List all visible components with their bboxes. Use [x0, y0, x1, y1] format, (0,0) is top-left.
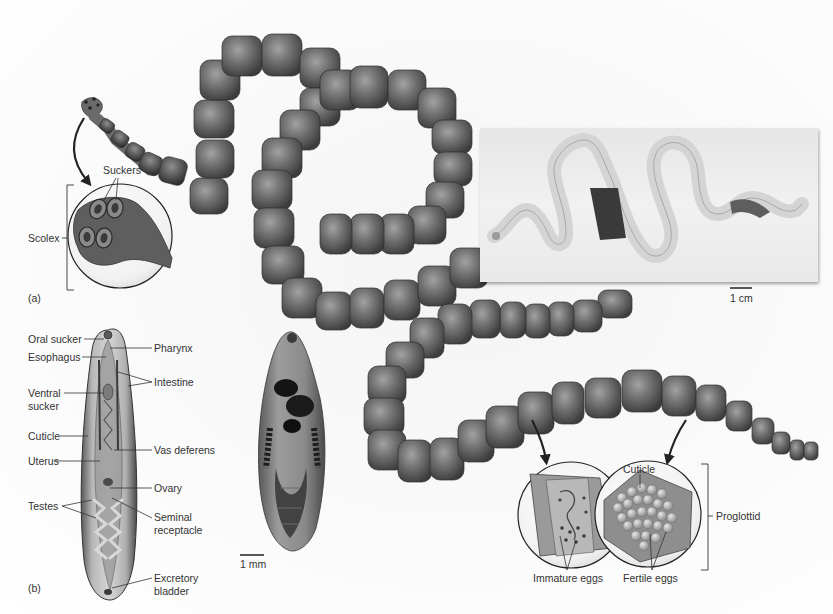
scolex-arrow — [74, 118, 88, 182]
tapeworm-photo-image — [480, 128, 818, 282]
label-ovary: Ovary — [154, 482, 182, 494]
label-ventral-sucker-line2: sucker — [28, 400, 59, 412]
label-excretory-bladder-line2: bladder — [154, 585, 189, 597]
panel-b-label: (b) — [28, 582, 41, 594]
label-excretory-bladder-line1: Excretory — [154, 572, 198, 584]
tapeworm-coil-segments — [190, 34, 488, 330]
label-proglottid: Proglottid — [716, 510, 760, 522]
tapeworm-illustration — [0, 0, 833, 614]
label-cuticle-proglottid: Cuticle — [623, 463, 655, 475]
label-uterus: Uterus — [28, 455, 59, 467]
label-fertile-eggs: Fertile eggs — [623, 572, 678, 584]
label-pharynx: Pharynx — [154, 342, 193, 354]
tapeworm-strobila-segments — [364, 290, 818, 482]
fluke-illustration — [81, 329, 137, 600]
mature-proglottid-arrow — [668, 420, 686, 460]
label-seminal-receptacle-line2: receptacle — [154, 524, 202, 536]
label-seminal-receptacle-line1: Seminal — [154, 511, 192, 523]
mature-proglottid-circle — [595, 461, 701, 567]
label-oral-sucker: Oral sucker — [28, 333, 82, 345]
label-intestine: Intestine — [154, 376, 194, 388]
label-ventral-sucker-line1: Ventral — [28, 387, 61, 399]
tapeworm-photograph — [480, 128, 818, 282]
label-vas-deferens: Vas deferens — [154, 444, 215, 456]
label-immature-eggs: Immature eggs — [533, 572, 603, 584]
photo-scale-bar-label: 1 cm — [730, 292, 753, 304]
label-testes: Testes — [28, 500, 58, 512]
fluke-micrograph — [250, 328, 330, 556]
label-esophagus: Esophagus — [28, 351, 81, 363]
label-scolex: Scolex — [28, 232, 60, 244]
figure-canvas: Suckers Scolex (a) 1 cm Cuticle Proglott… — [0, 0, 833, 614]
label-suckers: Suckers — [103, 164, 141, 176]
micrograph-scale-bar-label: 1 mm — [240, 558, 266, 570]
panel-a-label: (a) — [28, 292, 41, 304]
proglottid-bracket — [701, 464, 713, 570]
scolex-detail-circle — [68, 184, 172, 288]
label-cuticle-fluke: Cuticle — [28, 430, 60, 442]
